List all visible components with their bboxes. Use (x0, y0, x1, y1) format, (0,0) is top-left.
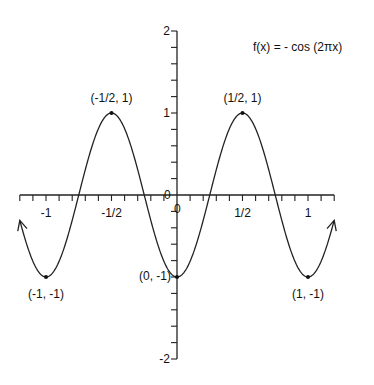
x-tick-label: 1 (305, 206, 312, 220)
point-label: (1/2, 1) (223, 91, 261, 105)
x-tick-label: -1 (41, 206, 52, 220)
point-marker (44, 275, 48, 279)
origin-label: 0 (164, 188, 171, 202)
point-label: (1, -1) (292, 287, 324, 301)
axes: -1-1/21/21 21-2 (20, 24, 334, 366)
point-label: (-1/2, 1) (90, 91, 132, 105)
x-tick-label: 1/2 (234, 206, 251, 220)
point-label: (-1, -1) (28, 287, 64, 301)
function-label: f(x) = - cos (2πx) (253, 40, 342, 54)
point-marker (175, 275, 179, 279)
point-label: (0, -1) (139, 269, 171, 283)
point-marker (241, 111, 245, 115)
y-tick-label: -2 (159, 352, 170, 366)
x-tick-label: -1/2 (101, 206, 122, 220)
function-plot: -1-1/21/21 21-2 (-1, -1)(-1/2, 1)(0, -1)… (0, 0, 374, 385)
point-marker (110, 111, 114, 115)
point-marker (306, 275, 310, 279)
origin-label-secondary: 0 (174, 202, 181, 216)
y-tick-label: 1 (163, 106, 170, 120)
y-tick-label: 2 (163, 24, 170, 38)
